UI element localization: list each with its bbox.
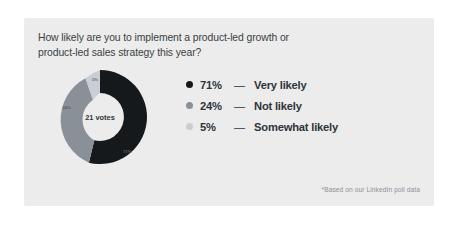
donut-label-very-likely: 71% xyxy=(123,149,132,154)
legend-dot-icon-somewhat-likely xyxy=(186,123,193,130)
legend-dash-somewhat-likely: — xyxy=(234,121,254,133)
legend-percent-not-likely: 24% xyxy=(200,100,234,112)
legend-label-not-likely: Not likely xyxy=(254,100,302,112)
legend-label-very-likely: Very likely xyxy=(254,79,307,91)
legend-dot-icon-very-likely xyxy=(186,81,193,88)
legend-item-not-likely: 24% — Not likely xyxy=(186,95,406,116)
donut-chart-svg: 71% 24% 5% xyxy=(48,65,152,169)
legend-dot-icon-not-likely xyxy=(186,102,193,109)
donut-slice-not-likely xyxy=(61,78,95,163)
legend-label-somewhat-likely: Somewhat likely xyxy=(254,121,338,133)
screenshot-root: How likely are you to implement a produc… xyxy=(0,0,460,227)
legend-percent-somewhat-likely: 5% xyxy=(200,121,234,133)
legend-item-very-likely: 71% — Very likely xyxy=(186,74,406,95)
poll-result-card: How likely are you to implement a produc… xyxy=(24,18,434,206)
chart-footnote: *Based on our LinkedIn poll data xyxy=(321,186,420,193)
chart-legend: 71% — Very likely 24% — Not likely 5% — … xyxy=(186,74,406,137)
legend-dash-very-likely: — xyxy=(234,79,254,91)
legend-item-somewhat-likely: 5% — Somewhat likely xyxy=(186,116,406,137)
donut-label-not-likely: 24% xyxy=(63,105,72,110)
donut-label-somewhat-likely: 5% xyxy=(92,77,98,82)
legend-dash-not-likely: — xyxy=(234,100,254,112)
donut-chart: 71% 24% 5% 21 votes xyxy=(48,65,152,169)
legend-percent-very-likely: 71% xyxy=(200,79,234,91)
poll-question-title: How likely are you to implement a produc… xyxy=(38,31,368,60)
